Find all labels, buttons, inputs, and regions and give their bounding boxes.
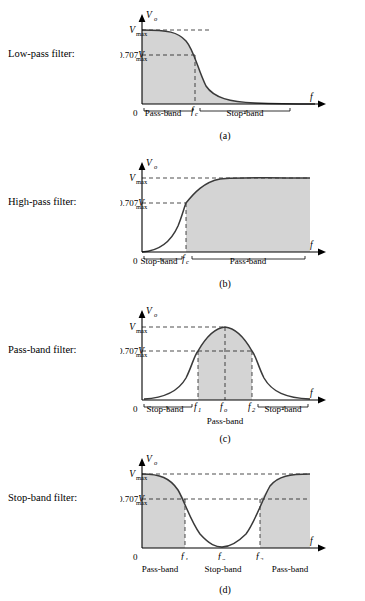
panel-pass-band: Pass-band filter: V o f 0 V max 0.707V m… — [0, 296, 365, 444]
y-axis-sub-c: o — [154, 311, 158, 318]
curve-fill-d-left — [142, 474, 185, 548]
panel-high-pass: High-pass filter: V o f 0 V max 0.707V m… — [0, 148, 365, 296]
caption-d: (d) — [120, 584, 330, 595]
band-label-c-0: Stop-band — [135, 404, 195, 414]
curve-fill-d-right — [260, 474, 310, 548]
band-label-c-1: Pass-band — [195, 416, 255, 426]
y-axis-label-c: V — [146, 306, 153, 316]
band-label-b-1: Pass-band — [215, 256, 281, 266]
v707-sub-d: max — [136, 499, 148, 506]
v707-sub-a: max — [136, 55, 148, 62]
panel-stop-band: Stop-band filter: V o f 0 V max 0.707V m… — [0, 444, 365, 592]
curve-fill-a — [142, 30, 315, 104]
caption-a: (a) — [120, 130, 330, 141]
band-label-a-1: Stop-band — [212, 108, 278, 118]
y-axis-label-b: V — [146, 158, 153, 168]
x-axis-label-c: f — [310, 388, 314, 398]
fo-sub-c: o — [224, 406, 228, 412]
y-axis-sub-b: o — [154, 163, 158, 170]
band-label-a-0: Pass-band — [130, 108, 196, 118]
y-axis-arrow-d — [139, 458, 146, 466]
curve-fill-b — [186, 178, 310, 252]
vmax-sub-c: max — [136, 327, 148, 334]
x-axis-arrow-c — [318, 397, 326, 404]
band-label-c-2: Stop-band — [253, 404, 313, 414]
x-axis-label-d: f — [310, 536, 314, 546]
plot-pass-band: V o f 0 V max 0.707V max f 1 f o f 2 Sto… — [120, 304, 330, 412]
x-axis-arrow-d — [318, 545, 326, 552]
row-label-stop-band: Stop-band filter: — [8, 492, 77, 503]
f2-sub-d: 2 — [260, 556, 264, 560]
vmax-sub-d: max — [136, 474, 148, 481]
row-label-high-pass: High-pass filter: — [8, 196, 77, 207]
caption-b: (b) — [120, 278, 330, 289]
y-axis-arrow-c — [139, 310, 146, 318]
band-label-d-2: Pass-band — [260, 564, 320, 574]
band-label-d-0: Pass-band — [130, 564, 190, 574]
f1-sub-d: 1 — [185, 556, 188, 560]
y-axis-arrow-b — [139, 162, 146, 170]
fo-sub-d: o — [222, 556, 226, 560]
x-axis-arrow-b — [318, 249, 326, 256]
x-axis-arrow-a — [318, 101, 326, 108]
origin-label-d: 0 — [133, 552, 138, 560]
band-label-d-1: Stop-band — [193, 564, 253, 574]
vmax-sub-a: max — [136, 30, 148, 37]
vmax-sub-b: max — [136, 178, 148, 185]
y-axis-label-a: V — [146, 10, 153, 20]
plot-low-pass: V o f 0 V max 0.707V max f c Pass-band S… — [120, 8, 330, 116]
plot-stop-band: V o f 0 V max 0.707V max f 1 f o f 2 Pas… — [120, 452, 330, 560]
v707-sub-b: max — [136, 203, 148, 210]
x-axis-label-b: f — [310, 240, 314, 250]
caption-c: (c) — [120, 433, 330, 444]
band-label-b-0: Stop-band — [126, 256, 192, 266]
v707-sub-c: max — [136, 351, 148, 358]
x-axis-label-a: f — [310, 92, 314, 102]
row-label-low-pass: Low-pass filter: — [8, 48, 75, 59]
panel-low-pass: Low-pass filter: V o f 0 V max 0.707V m — [0, 0, 365, 148]
f1-sub-c: 1 — [198, 406, 201, 412]
y-axis-arrow-a — [139, 14, 146, 22]
row-label-pass-band: Pass-band filter: — [8, 344, 77, 355]
y-axis-label-d: V — [146, 454, 153, 464]
plot-high-pass: V o f 0 V max 0.707V max f c Stop-band P… — [120, 156, 330, 264]
y-axis-sub-d: o — [154, 459, 158, 466]
y-axis-sub-a: o — [154, 15, 158, 22]
